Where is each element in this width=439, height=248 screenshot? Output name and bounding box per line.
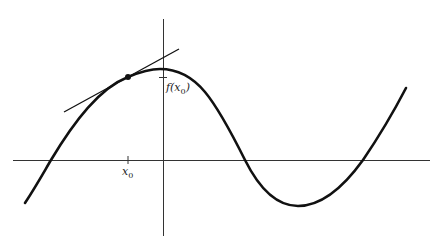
x0-label: x0 — [122, 165, 133, 180]
tangent-point — [125, 74, 131, 80]
function-curve — [25, 69, 406, 206]
diagram-canvas — [0, 0, 439, 248]
fx0-label: f(x0) — [166, 81, 190, 96]
